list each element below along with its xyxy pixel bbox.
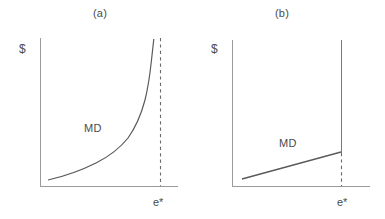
panel-a: (a) $ MD e* (0, 0, 192, 219)
panel-a-md-curve (48, 39, 154, 180)
panel-a-plot (0, 0, 192, 219)
panel-b-plot (192, 0, 384, 219)
panel-b: (b) $ MD e* (192, 0, 384, 219)
figure-root: (a) $ MD e* (b) $ MD e* (0, 0, 385, 219)
panel-b-md-line (242, 152, 341, 179)
